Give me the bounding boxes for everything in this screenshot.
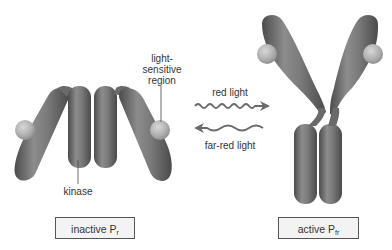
kinase-label: kinase [58, 186, 98, 197]
phytochrome-diagram [0, 0, 392, 250]
light-sensitive-region-label: light- sensitive region [140, 53, 184, 86]
inactive-subscript: r [117, 229, 119, 236]
lower-domain-right [319, 124, 342, 204]
far-red-light-arrow [196, 126, 263, 131]
far-red-light-label: far-red light [192, 140, 268, 151]
lower-domain-left [294, 124, 317, 204]
chromophore-right [150, 120, 170, 140]
active-pfr-label-box: active Pfr [278, 217, 359, 239]
inactive-pr-label-box: inactive Pr [55, 217, 135, 239]
chromophore-right-active [363, 44, 383, 64]
active-subscript: fr [335, 229, 339, 236]
chromophore-left [15, 120, 35, 140]
inactive-pr-structure [15, 86, 172, 184]
red-light-arrow [195, 104, 268, 108]
light-arrows [195, 104, 268, 131]
active-pfr-structure [257, 15, 383, 204]
upper-left-arm [262, 15, 326, 116]
upper-right-arm [330, 15, 378, 116]
kinase-domain-right [94, 86, 117, 168]
chromophore-left-active [257, 44, 277, 64]
kinase-domain-left [68, 86, 91, 168]
red-light-label: red light [200, 87, 260, 98]
